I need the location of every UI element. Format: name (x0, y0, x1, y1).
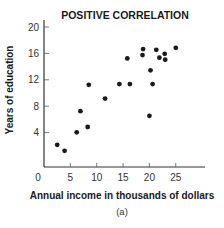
data-points (55, 45, 178, 153)
data-point (141, 47, 146, 52)
data-point (157, 55, 162, 60)
data-point (86, 82, 91, 87)
data-point (173, 45, 178, 50)
y-tick-label: 12 (28, 74, 40, 85)
data-point (85, 125, 90, 130)
y-axis-ticks: 48121620 (28, 22, 49, 139)
y-axis: 48121620 (28, 20, 49, 167)
scatter-chart: POSITIVE CORRELATION 48121620 0510152025… (0, 0, 224, 228)
y-tick-label: 8 (33, 101, 39, 112)
x-tick-label: 10 (91, 172, 103, 183)
y-tick-label: 4 (33, 127, 39, 138)
data-point (163, 57, 168, 62)
y-axis-label: Years of education (4, 46, 15, 135)
x-axis: 0510152025 (35, 163, 205, 183)
data-point (162, 51, 167, 56)
x-axis-ticks: 0510152025 (35, 163, 182, 183)
data-point (55, 142, 60, 147)
data-point (147, 113, 152, 118)
data-point (103, 96, 108, 101)
chart-title: POSITIVE CORRELATION (61, 9, 189, 21)
x-axis-label: Annual income in thousands of dollars (30, 190, 215, 201)
data-point (154, 47, 159, 52)
data-point (125, 56, 130, 61)
x-tick-label: 5 (68, 172, 74, 183)
x-tick-label: 15 (117, 172, 129, 183)
data-point (117, 82, 122, 87)
x-tick-label: 0 (35, 172, 41, 183)
data-point (148, 68, 153, 73)
data-point (74, 130, 79, 135)
data-point (62, 148, 67, 153)
x-tick-label: 25 (170, 172, 182, 183)
figure-caption: (a) (116, 206, 128, 217)
data-point (127, 82, 132, 87)
data-point (150, 82, 155, 87)
data-point (78, 109, 83, 114)
data-point (140, 53, 145, 58)
y-tick-label: 16 (28, 48, 40, 59)
x-tick-label: 20 (144, 172, 156, 183)
y-tick-label: 20 (28, 22, 40, 33)
